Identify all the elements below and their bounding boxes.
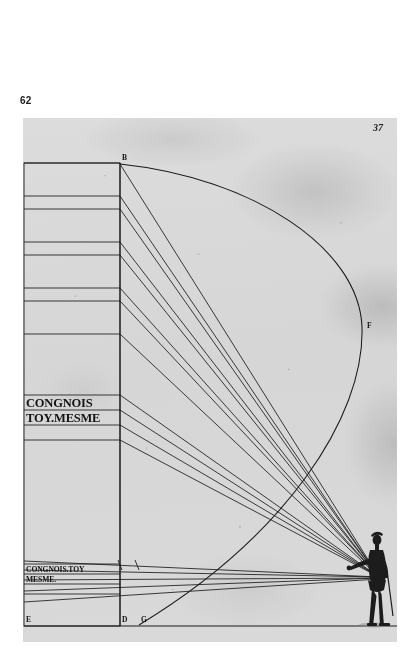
motto-large-line-1: CONG: [26, 162, 103, 189]
motto-large-line-2: NOIS: [26, 208, 89, 235]
facsimile-plate: 37: [23, 118, 397, 642]
motto-large-line-4: MESME: [28, 300, 117, 325]
motto-small-line-1: CONGNOIS.TOY: [26, 565, 84, 574]
point-label-b: B: [122, 153, 127, 162]
point-label-d: D: [122, 615, 127, 624]
motto-medium-line-1: CONGNOIS: [26, 396, 92, 411]
point-label-g: G: [141, 615, 147, 624]
point-label-e: E: [26, 615, 31, 624]
motto-medium-line-2: TOY.MESME: [26, 411, 100, 426]
book-page: 62 37: [0, 0, 420, 654]
construction-arc: [120, 164, 362, 625]
motto-large-line-3: TOY: [32, 254, 83, 279]
modern-page-number: 62: [20, 95, 32, 106]
motto-small-line-2: MESME.: [26, 575, 56, 584]
projection-rays-upper: [120, 164, 379, 577]
perspective-diagram: [23, 118, 397, 642]
point-label-f: F: [367, 321, 372, 330]
